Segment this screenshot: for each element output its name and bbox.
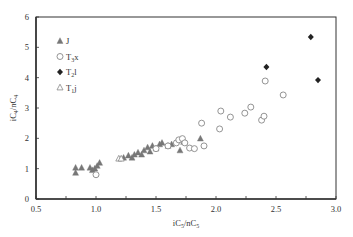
scatter-chart: 0.51.01.52.02.53.0 0123456 iC5/nC5 iC4/n…	[0, 0, 353, 237]
x-axis-title: iC5/nC5	[173, 218, 199, 229]
chart-background	[0, 0, 353, 237]
data-point-t3x	[280, 92, 286, 98]
y-tick-label: 3	[25, 103, 29, 113]
data-point-t3x	[153, 146, 159, 152]
x-tick-label: 0.5	[31, 204, 42, 214]
data-point-t3x	[199, 120, 205, 126]
data-point-t3x	[165, 143, 171, 149]
data-point-t3x	[261, 113, 267, 119]
x-tick-label: 3.0	[331, 204, 342, 214]
x-tick-label: 2.0	[211, 204, 222, 214]
x-tick-label: 1.5	[151, 204, 162, 214]
y-tick-label: 1	[25, 164, 29, 174]
y-tick-label: 6	[25, 12, 29, 22]
data-point-t3x	[248, 104, 254, 110]
data-point-t3x	[191, 146, 197, 152]
y-axis-title: iC4/nC4	[8, 95, 19, 121]
data-point-t3x	[93, 172, 99, 178]
y-tick-label: 5	[25, 42, 29, 52]
x-tick-label: 1.0	[91, 204, 102, 214]
legend-marker-t3x	[57, 54, 63, 60]
y-tick-label: 2	[25, 133, 29, 143]
data-point-t3x	[201, 143, 207, 149]
y-tick-label: 0	[25, 194, 29, 204]
data-point-t3x	[242, 110, 248, 116]
data-point-t3x	[218, 108, 224, 114]
data-point-t3x	[262, 78, 268, 84]
x-tick-label: 2.5	[271, 204, 282, 214]
data-point-t3x	[217, 126, 223, 132]
data-point-t3x	[182, 140, 188, 146]
data-point-t3x	[227, 114, 233, 120]
